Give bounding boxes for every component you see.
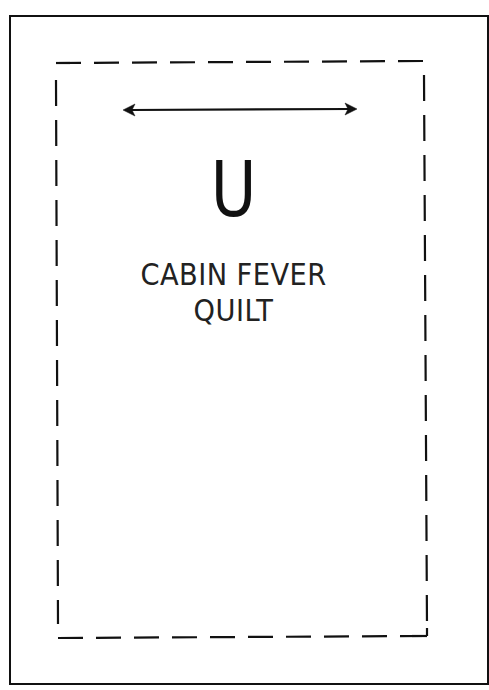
- block-letter: U: [42, 152, 425, 228]
- double-arrow-icon: [123, 103, 357, 116]
- quilt-title-line-1: CABIN FEVER: [28, 257, 439, 291]
- quilt-title-line-2: QUILT: [28, 293, 439, 327]
